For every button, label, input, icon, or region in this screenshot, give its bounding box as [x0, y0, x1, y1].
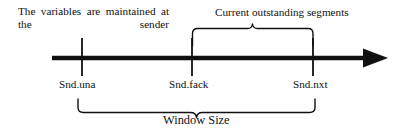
axis-label-snd-una: Snd.una [59, 78, 95, 91]
axis-label-snd-fack: Snd.fack [169, 78, 208, 91]
axis-label-snd-nxt: Snd.nxt [293, 78, 328, 91]
sliding-window-diagram: The variables are maintained at the send… [0, 0, 401, 135]
axis-arrowhead [363, 49, 388, 68]
lower-brace-label: Window Size [163, 113, 230, 128]
upper-brace [193, 24, 314, 46]
upper-brace-label: Current outstanding segments [215, 6, 349, 19]
sequence-number-axis [52, 49, 388, 68]
annotation-text: The variables are maintained at the send… [18, 5, 169, 44]
